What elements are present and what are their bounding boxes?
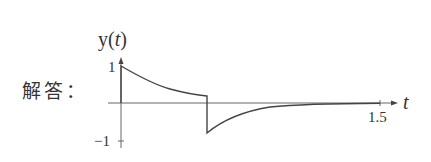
- t-tick-label-1-5: 1.5: [368, 109, 387, 125]
- y-axis-label: y(t): [98, 28, 127, 51]
- y-tick-label-minus1: −1: [94, 133, 110, 149]
- t-axis-label: t: [403, 91, 409, 113]
- response-curve: [121, 66, 380, 133]
- y-tick-label-1: 1: [108, 59, 116, 75]
- y-axis-arrow-icon: [119, 57, 124, 64]
- t-axis-arrow-icon: [391, 101, 398, 106]
- chart: y(t) 1 −1 1.5 t: [0, 0, 431, 162]
